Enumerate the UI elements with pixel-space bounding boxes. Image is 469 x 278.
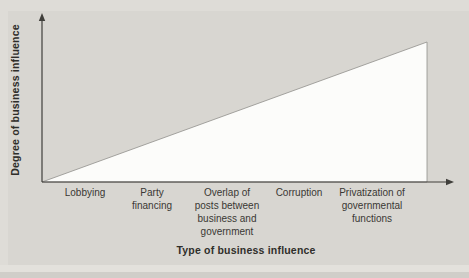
scanned-page: Degree of business influence Lobbying Pa… bbox=[0, 0, 469, 278]
x-axis-arrow-icon bbox=[446, 179, 454, 185]
x-axis-title: Type of business influence bbox=[176, 244, 315, 256]
y-axis-title: Degree of business influence bbox=[9, 24, 21, 175]
y-axis-arrow-icon bbox=[39, 13, 45, 21]
category-label-privatization: Privatization of governmental functions bbox=[325, 186, 419, 225]
influence-triangle bbox=[42, 42, 427, 182]
